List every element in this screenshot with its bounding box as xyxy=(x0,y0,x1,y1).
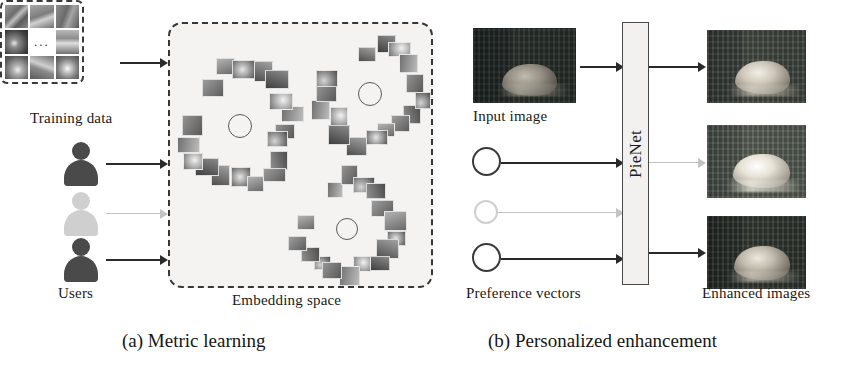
embedding-thumbnail xyxy=(339,266,360,286)
embedding-thumbnail xyxy=(366,130,388,145)
caption-panel-a: (a) Metric learning xyxy=(122,330,265,352)
embedding-space-box xyxy=(168,22,433,288)
embedding-thumbnail xyxy=(267,131,288,147)
embedding-thumbnail xyxy=(269,93,293,110)
avatar-head xyxy=(72,192,90,210)
enhanced-image-2 xyxy=(707,125,806,198)
figure-root: ... Training data xyxy=(0,0,867,371)
input-image-label: Input image xyxy=(473,108,547,125)
training-data-grid: ... xyxy=(0,0,84,84)
embedding-thumbnail xyxy=(384,211,407,231)
cluster-center-ring xyxy=(358,82,382,106)
training-cell xyxy=(30,56,53,79)
embedding-thumbnail xyxy=(247,176,264,192)
embedding-thumbnail xyxy=(263,168,286,182)
embedding-thumbnail xyxy=(316,70,338,87)
training-cell xyxy=(5,5,28,28)
avatar-body xyxy=(64,256,98,282)
cluster-center-ring xyxy=(336,218,358,240)
training-data-label: Training data xyxy=(30,110,112,127)
avatar-body xyxy=(64,160,98,186)
embedding-thumbnail xyxy=(399,54,418,73)
embedding-thumbnail xyxy=(177,137,200,153)
embedding-thumbnail xyxy=(265,70,289,89)
embedding-thumbnail xyxy=(366,183,386,199)
embedding-thumbnail xyxy=(415,92,431,109)
enhanced-image-1 xyxy=(707,30,806,103)
training-cell xyxy=(56,30,79,53)
pienet-block: PieNet xyxy=(622,22,649,285)
training-ellipsis: ... xyxy=(30,30,53,53)
users-label: Users xyxy=(58,285,93,302)
avatar-head xyxy=(72,142,90,160)
embedding-clusters xyxy=(170,24,431,286)
embedding-thumbnail xyxy=(406,74,424,93)
training-cell xyxy=(56,56,79,79)
pref-vector-3 xyxy=(472,243,501,272)
input-image xyxy=(473,28,576,103)
avatar-user-2 xyxy=(62,192,100,236)
avatar-user-1 xyxy=(62,142,100,186)
embedding-thumbnail xyxy=(183,153,203,170)
pienet-label: PieNet xyxy=(626,129,646,177)
panel-a: ... Training data xyxy=(0,0,440,371)
training-cell xyxy=(5,56,28,79)
embedding-thumbnail xyxy=(322,262,342,279)
embedding-thumbnail xyxy=(328,125,350,145)
embedding-thumbnail xyxy=(358,47,376,62)
embedding-thumbnail xyxy=(202,79,224,97)
pref-vector-2 xyxy=(474,200,498,224)
embedding-thumbnail xyxy=(316,86,337,102)
avatar-user-3 xyxy=(62,238,100,282)
embedding-thumbnail xyxy=(270,151,288,170)
embedding-thumbnail xyxy=(288,236,307,251)
embedding-space-label: Embedding space xyxy=(232,292,341,309)
embedding-thumbnail xyxy=(232,60,255,79)
embedding-thumbnail xyxy=(297,215,315,230)
panel-b: Input image Preference vectors PieNet xyxy=(440,0,867,371)
caption-panel-b: (b) Personalized enhancement xyxy=(488,330,717,352)
embedding-thumbnail xyxy=(311,100,330,120)
training-cell xyxy=(5,30,28,53)
embedding-thumbnail xyxy=(370,256,390,271)
avatar-body xyxy=(64,210,98,236)
training-cell xyxy=(30,5,53,28)
pref-vector-1 xyxy=(472,147,501,176)
avatar-head xyxy=(72,238,90,256)
training-cell xyxy=(56,5,79,28)
cluster-center-ring xyxy=(228,114,252,138)
enhanced-image-3 xyxy=(707,216,806,289)
preference-vectors-label: Preference vectors xyxy=(466,285,581,302)
embedding-thumbnail xyxy=(182,115,203,136)
enhanced-images-label: Enhanced images xyxy=(702,285,810,302)
